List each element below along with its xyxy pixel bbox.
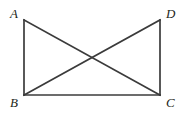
vertex-label-a: A: [10, 7, 18, 20]
vertex-label-d: D: [166, 7, 175, 20]
figure-drawing: [0, 0, 190, 114]
geometry-figure: A D B C: [0, 0, 190, 114]
vertex-label-c: C: [166, 96, 175, 109]
vertex-label-b: B: [10, 96, 18, 109]
